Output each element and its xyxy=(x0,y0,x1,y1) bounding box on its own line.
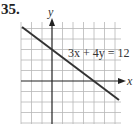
x-axis-arrow-icon xyxy=(118,78,126,84)
x-axis-label: x xyxy=(126,74,133,88)
equation-label: 3x + 4y = 12 xyxy=(68,46,130,60)
y-axis-arrow-icon xyxy=(49,18,55,26)
graph: x y 3x + 4y = 12 xyxy=(0,0,139,135)
y-axis-label: y xyxy=(47,5,54,19)
